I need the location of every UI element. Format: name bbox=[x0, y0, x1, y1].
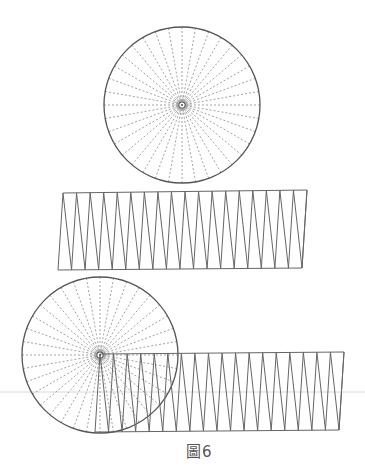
top-circle-divided-into-sectors bbox=[104, 27, 260, 183]
figure-caption: 圖6 bbox=[186, 440, 213, 461]
circle-area-diagram bbox=[0, 0, 365, 475]
rearranged-sectors-strip bbox=[58, 190, 307, 270]
